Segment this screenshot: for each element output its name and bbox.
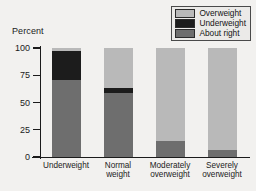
legend-item-overweight[interactable]: Overweight xyxy=(175,9,246,18)
bar-moderately-overweight xyxy=(156,48,185,157)
bar-segment-about-right xyxy=(52,80,81,157)
chart-legend: OverweightUnderweightAbout right xyxy=(171,6,251,41)
legend-label: Overweight xyxy=(199,9,241,18)
y-tick-25: 25 xyxy=(33,129,40,130)
y-tick-label-0: 0 xyxy=(25,152,30,162)
y-tick-75: 75 xyxy=(33,75,40,76)
legend-swatch-icon xyxy=(175,29,195,38)
legend-label: About right xyxy=(199,29,239,38)
y-tick-label-75: 75 xyxy=(20,70,30,80)
stacked-bar-chart: Percent 1007550250 UnderweightNormal wei… xyxy=(0,0,256,191)
bar-underweight xyxy=(52,48,81,157)
y-tick-label-50: 50 xyxy=(20,98,30,108)
bar-severely-overweight xyxy=(208,48,237,157)
bar-normal-weight xyxy=(104,48,133,157)
y-tick-label-100: 100 xyxy=(15,43,30,53)
x-axis-label-3: Severely overweight xyxy=(190,161,254,180)
x-axis-line xyxy=(32,157,250,158)
y-tick-0: 0 xyxy=(33,156,40,157)
bar-segment-underweight xyxy=(52,51,81,79)
bar-segment-overweight xyxy=(104,48,133,88)
y-axis-title: Percent xyxy=(12,26,44,36)
y-tick-100: 100 xyxy=(33,47,40,48)
legend-swatch-icon xyxy=(175,19,195,28)
legend-item-underweight[interactable]: Underweight xyxy=(175,19,246,28)
bar-segment-overweight xyxy=(208,48,237,150)
bar-segment-overweight xyxy=(156,48,185,141)
plot-area xyxy=(40,48,248,157)
bar-segment-about-right xyxy=(208,150,237,157)
legend-item-about-right[interactable]: About right xyxy=(175,29,246,38)
legend-label: Underweight xyxy=(199,19,246,28)
bar-segment-about-right xyxy=(156,141,185,157)
legend-swatch-icon xyxy=(175,9,195,18)
y-tick-label-25: 25 xyxy=(20,125,30,135)
y-tick-50: 50 xyxy=(33,102,40,103)
bar-segment-about-right xyxy=(104,93,133,157)
